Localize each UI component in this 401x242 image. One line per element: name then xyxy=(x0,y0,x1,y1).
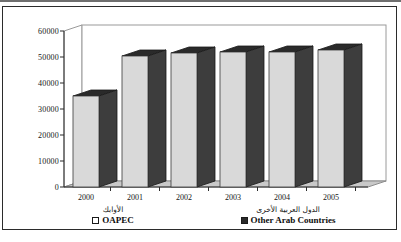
bar-2002 xyxy=(171,47,215,187)
legend-label-en-wrap: Other Arab Countries xyxy=(193,215,383,225)
legend-label-ar: الدول العربية الأخرى xyxy=(193,205,383,214)
x-tick-label: 2004 xyxy=(274,193,290,202)
x-tick-label: 2005 xyxy=(323,193,339,202)
legend-label-ar: الأوابك xyxy=(43,205,183,214)
x-tick-label: 2003 xyxy=(225,193,241,202)
legend-entry-oapec: الأوابك OAPEC xyxy=(43,205,183,225)
page-edge-gap xyxy=(0,2,401,5)
bar-2001 xyxy=(122,50,166,187)
x-tick-label: 2002 xyxy=(176,193,192,202)
bar-2005 xyxy=(318,44,362,187)
legend-label-en: Other Arab Countries xyxy=(251,215,336,225)
chart-plot: 60000 50000 40000 30000 20000 10000 0 xyxy=(3,7,396,229)
x-tick-label: 2000 xyxy=(78,193,94,202)
legend-label-en-wrap: OAPEC xyxy=(43,215,183,225)
chart-figure: 60000 50000 40000 30000 20000 10000 0 xyxy=(0,0,401,242)
light-square-icon xyxy=(92,217,99,224)
legend-label-en: OAPEC xyxy=(102,215,134,225)
legend-entry-other-arab-countries: الدول العربية الأخرى Other Arab Countrie… xyxy=(193,205,383,225)
bar-2004 xyxy=(269,46,313,187)
chart-frame: 60000 50000 40000 30000 20000 10000 0 xyxy=(2,6,397,230)
dark-square-icon xyxy=(241,217,248,224)
bar-2003 xyxy=(220,46,264,187)
bar-2000 xyxy=(73,90,117,187)
x-tick-label: 2001 xyxy=(127,193,143,202)
